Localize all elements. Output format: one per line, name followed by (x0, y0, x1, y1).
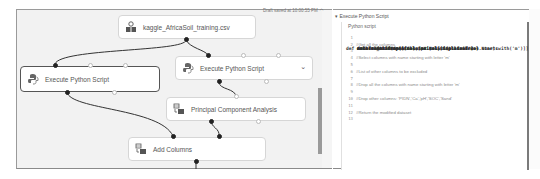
output-port[interactable] (264, 79, 269, 84)
line-number: 8 (344, 82, 353, 87)
code-line: 8#Drop all the columns with name startin… (344, 82, 528, 89)
line-text: return dataframe1 (346, 46, 530, 51)
node-label: Add Columns (153, 146, 192, 153)
chevron-down-icon[interactable]: ⌄ (300, 63, 306, 71)
canvas-scrollbar[interactable] (318, 88, 322, 154)
line-number: 10 (344, 96, 353, 101)
node-execute-python-2[interactable]: Execute Python Script ⌄ (175, 56, 313, 80)
field-label: Python script (348, 24, 376, 29)
node-principal-component-analysis[interactable]: Principal Component Analysis (166, 97, 306, 121)
code-line: 13 return dataframe1 (344, 116, 528, 123)
input-port[interactable] (276, 53, 281, 58)
chevron-up-icon[interactable]: ^ (319, 7, 324, 14)
python-icon (182, 62, 194, 74)
properties-panel: ▾ Execute Python Script Python script 1d… (333, 9, 529, 169)
line-number: 13 (344, 116, 353, 121)
input-port[interactable] (234, 94, 239, 99)
input-port[interactable] (171, 134, 176, 139)
line-text: #Select columns with name starting with … (356, 55, 450, 60)
code-line: 1def azureml_main(dataframe1 = None, dat… (344, 34, 528, 41)
code-line: 6#List of other columns to be excluded (344, 68, 528, 75)
input-port[interactable] (123, 63, 128, 68)
code-line: 9 dataframe1.drop(mcols, axis=1, inplace… (344, 88, 528, 95)
node-execute-python-1[interactable]: Execute Python Script (20, 66, 160, 92)
code-line: 5 mcols=dataframe1[[col for col in cols … (344, 61, 528, 68)
output-port[interactable] (256, 119, 261, 124)
code-line: 4#Select columns with name starting with… (344, 54, 528, 61)
line-number: 1 (344, 35, 353, 40)
line-number: 11 (344, 103, 353, 108)
code-lines: 1def azureml_main(dataframe1 = None, dat… (344, 34, 528, 122)
section-title: Execute Python Script (339, 13, 388, 19)
line-text: #List of other columns to be excluded (356, 69, 427, 74)
line-number: 12 (344, 110, 353, 115)
node-label: kaggle_AfricaSoil_training.csv (143, 24, 230, 31)
line-number: 5 (344, 62, 353, 67)
output-port[interactable] (217, 79, 222, 84)
line-text: #Return the modified dataset (356, 110, 411, 115)
python-script-editor[interactable]: Python script 1def azureml_main(datafram… (341, 22, 529, 170)
node-dataset[interactable]: kaggle_AfricaSoil_training.csv (118, 15, 256, 39)
line-number: 6 (344, 69, 353, 74)
input-port[interactable] (206, 53, 211, 58)
input-port[interactable] (241, 53, 246, 58)
code-line: 10#Drop other columns: 'PIDN','Ca','pH',… (344, 95, 528, 102)
node-label: Execute Python Script (200, 65, 264, 72)
output-port[interactable] (184, 37, 189, 42)
dataset-icon (125, 21, 137, 33)
line-number: 4 (344, 55, 353, 60)
node-label: Execute Python Script (45, 76, 109, 83)
canvas-edge (322, 9, 332, 169)
draft-saved-status: Draft saved at 10:00:55 PM (263, 8, 318, 13)
node-add-columns[interactable]: Add Columns (128, 137, 266, 161)
code-line: 7 exCols=['PIDN', 'Ca', 'pH', 'SOC', 'Sa… (344, 75, 528, 82)
module-icon (135, 143, 147, 155)
input-port[interactable] (217, 134, 222, 139)
output-port[interactable] (65, 90, 70, 95)
line-number: 7 (344, 76, 353, 81)
module-icon (173, 103, 185, 115)
code-line: 12#Return the modified dataset (344, 109, 528, 116)
section-header[interactable]: ▾ Execute Python Script (333, 10, 529, 22)
line-text: #Drop other columns: 'PIDN','Ca','pH','S… (356, 96, 452, 101)
python-icon (27, 73, 39, 85)
input-port[interactable] (88, 63, 93, 68)
output-port[interactable] (112, 90, 117, 95)
output-port[interactable] (194, 159, 199, 164)
input-port[interactable] (53, 63, 58, 68)
line-text: #Drop all the columns with name starting… (356, 82, 460, 87)
code-line: 11 dataframe1.drop(exCols,axis=1, inplac… (344, 102, 528, 109)
line-number: 9 (344, 89, 353, 94)
panel-margin (529, 9, 540, 169)
node-label: Principal Component Analysis (191, 106, 277, 113)
output-port[interactable] (209, 119, 214, 124)
